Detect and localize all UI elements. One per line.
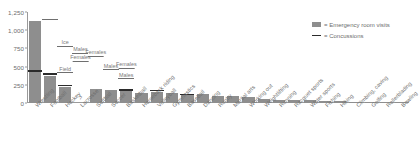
y-tick-label: 750	[13, 45, 24, 52]
bar-annotation: Females	[116, 61, 137, 69]
bar-annotation-rule	[103, 69, 119, 70]
bar-annotation: Males	[118, 72, 134, 80]
plot-area: 02505007501,0001,250 IceMalesFemalesFema…	[27, 12, 409, 103]
y-tick-label: 250	[13, 81, 24, 88]
bar-annotation-rule	[118, 68, 134, 69]
bar-annotation-rule	[57, 46, 73, 47]
bar-annotation-text: Females	[85, 49, 106, 55]
bar-annotation-text: Females	[116, 61, 137, 67]
bar-annotation-rule	[42, 19, 58, 20]
bar-annotation-text: Males	[119, 72, 133, 78]
y-tick-label: 500	[13, 63, 24, 70]
x-axis-labels: WrestlingFootballHockeyLacrosseSoftballS…	[27, 104, 409, 164]
bar-annotation-rule	[118, 78, 134, 79]
bar-group	[348, 12, 363, 103]
bar-group	[226, 12, 241, 103]
bar-group	[333, 12, 348, 103]
concussion-marker	[28, 70, 42, 71]
y-tick-label: 1,000	[8, 27, 24, 34]
bar-annotation-rule	[57, 72, 73, 73]
y-tick-label: 1,250	[8, 9, 24, 16]
bar-annotation	[42, 18, 58, 20]
bar-annotation-rule	[72, 61, 88, 62]
bar-annotation-text: Field	[59, 66, 71, 72]
y-tick-label: 0	[20, 100, 24, 107]
bar-annotation-text: Ice	[62, 39, 69, 45]
bar-annotation: Field	[57, 66, 73, 74]
bar-group	[210, 12, 225, 103]
bar	[29, 21, 41, 103]
bar-annotation-rule	[88, 56, 104, 57]
bar-annotation: Females	[85, 49, 106, 57]
concussion-marker	[58, 85, 72, 86]
bar-annotation: Ice	[57, 39, 73, 47]
bar-group	[27, 12, 42, 103]
bar-group	[287, 12, 302, 103]
concussion-marker	[119, 89, 133, 90]
concussion-marker	[43, 73, 57, 74]
bar-group	[378, 12, 393, 103]
bar-group	[119, 12, 134, 103]
bar-group	[103, 12, 118, 103]
